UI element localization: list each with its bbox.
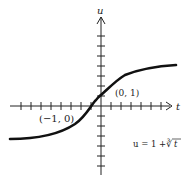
equation-radical: ∛ [166,138,172,149]
u-axis-label: u [97,5,103,16]
function-graph: u t (0, 1) (−1, 0) u = 1 + ∛ t [0,0,193,179]
point-label-0-1: (0, 1) [115,88,139,98]
equation-prefix: u = 1 + [133,139,166,149]
equation-label: u = 1 + ∛ t [133,138,181,149]
equation-var: t [174,139,178,149]
point-label-neg1-0: (−1, 0) [39,113,74,124]
t-axis-label: t [176,101,181,112]
